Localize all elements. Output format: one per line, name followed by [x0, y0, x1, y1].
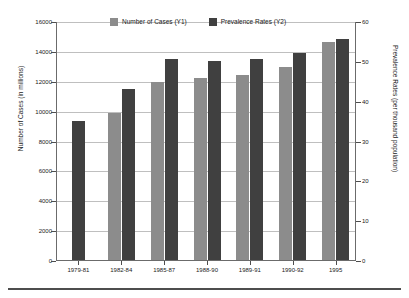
- bar-prevalence-rates: [336, 39, 349, 260]
- y-axis-right-tick-label: 60: [362, 19, 392, 25]
- y-axis-right-tick-label: 40: [362, 99, 392, 105]
- y-axis-left-tick-label: 4000: [6, 198, 52, 204]
- bar-number-of-cases: [108, 113, 121, 260]
- bar-number-of-cases: [151, 82, 164, 261]
- x-axis-tick-mark: [336, 261, 337, 265]
- y-axis-left-tick-mark: [51, 82, 56, 83]
- y-axis-left-tick-mark: [51, 171, 56, 172]
- x-axis-tick-mark: [293, 261, 294, 265]
- bar-number-of-cases: [236, 75, 249, 260]
- x-axis-tick-mark: [207, 261, 208, 265]
- bar-prevalence-rates: [250, 59, 263, 260]
- bar-prevalence-rates: [208, 61, 221, 260]
- chart-figure: Number of Cases (Y1) Prevalence Rates (Y…: [0, 0, 409, 298]
- y-axis-left-tick-label: 0: [6, 258, 52, 264]
- y-axis-left-tick-mark: [51, 142, 56, 143]
- y-axis-left-tick-label: 14000: [6, 49, 52, 55]
- bar-prevalence-rates: [293, 53, 306, 260]
- y-axis-left-tick-label: 12000: [6, 79, 52, 85]
- y-axis-right-tick-mark: [356, 142, 361, 143]
- x-axis-tick-mark: [121, 261, 122, 265]
- y-axis-right-tick-mark: [356, 261, 361, 262]
- bar-prevalence-rates: [165, 59, 178, 260]
- y-axis-right-tick-label: 20: [362, 178, 392, 184]
- y-axis-right-tick-mark: [356, 221, 361, 222]
- y-axis-left-tick-label: 6000: [6, 168, 52, 174]
- y-axis-left-tick-label: 2000: [6, 228, 52, 234]
- bar-prevalence-rates: [122, 89, 135, 260]
- bar-prevalence-rates: [72, 121, 85, 260]
- y-axis-right-tick-label: 30: [362, 139, 392, 145]
- x-axis-tick-mark: [250, 261, 251, 265]
- y-axis-left-tick-mark: [51, 231, 56, 232]
- bar-number-of-cases: [322, 42, 335, 260]
- y-axis-right-tick-mark: [356, 22, 361, 23]
- y-axis-left-tick-label: 10000: [6, 109, 52, 115]
- bottom-divider: [8, 288, 401, 290]
- y-axis-left-tick-mark: [51, 22, 56, 23]
- y-axis-left-tick-label: 8000: [6, 139, 52, 145]
- x-axis-tick-mark: [164, 261, 165, 265]
- y-axis-right-tick-mark: [356, 62, 361, 63]
- x-axis-tick-label: 1995: [311, 267, 361, 274]
- y-axis-right-tick-label: 0: [362, 258, 392, 264]
- y-axis-right-tick-label: 10: [362, 218, 392, 224]
- y-axis-left-tick-mark: [51, 201, 56, 202]
- y-axis-right-title: Prevalence Rates (per thousand populatio…: [392, 9, 399, 209]
- bar-groups: [57, 22, 355, 260]
- bar-number-of-cases: [279, 67, 292, 260]
- y-axis-right-tick-label: 50: [362, 59, 392, 65]
- x-axis-tick-mark: [78, 261, 79, 265]
- y-axis-right-tick-mark: [356, 181, 361, 182]
- y-axis-left-tick-mark: [51, 112, 56, 113]
- bar-number-of-cases: [194, 78, 207, 260]
- y-axis-left-tick-label: 16000: [6, 19, 52, 25]
- y-axis-left-tick-mark: [51, 52, 56, 53]
- y-axis-left-tick-mark: [51, 261, 56, 262]
- y-axis-right-tick-mark: [356, 102, 361, 103]
